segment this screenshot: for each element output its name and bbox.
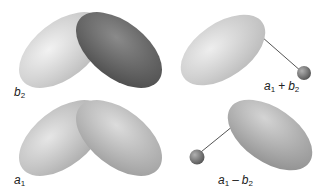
hybrid-lobe: [215, 85, 325, 184]
b2-orbital: [5, 0, 175, 103]
bond-line: [262, 37, 302, 72]
atom-sphere: [190, 150, 205, 165]
atom-sphere: [297, 66, 311, 80]
b2-label: b2: [14, 86, 25, 100]
a1-minus-b2-hybrid: [190, 85, 325, 184]
orbital-diagram: [0, 0, 331, 194]
a1-orbital: [5, 85, 175, 191]
hybrid-lobe: [168, 0, 278, 99]
a1-minus-b2-label: a1–b2: [218, 174, 253, 188]
a1-label: a1: [14, 174, 25, 188]
a1-plus-b2-label: a1+b2: [264, 80, 299, 94]
